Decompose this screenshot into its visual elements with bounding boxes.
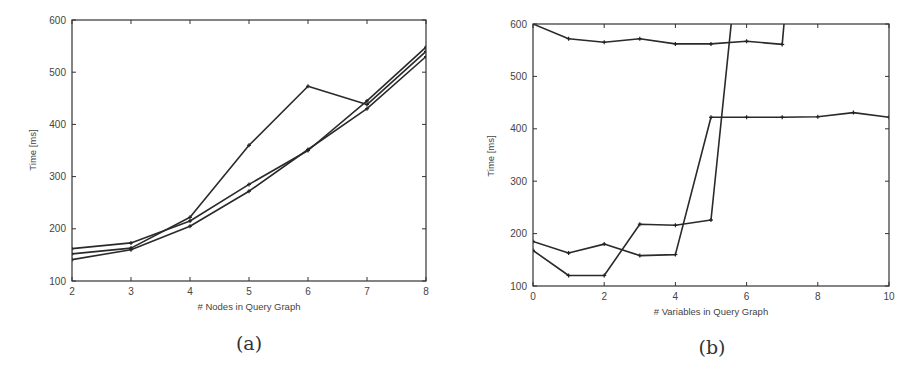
- chart-b-caption: (b): [699, 336, 726, 358]
- chart-b-plot-frame: [533, 24, 889, 286]
- y-tick-label: 600: [510, 19, 527, 30]
- x-tick-label: 6: [305, 286, 311, 297]
- x-tick-label: 5: [246, 286, 252, 297]
- chart-a: 1002003004005006002345678 Time [ms] # No…: [27, 15, 429, 355]
- chart-b-series-3-line: [533, 0, 789, 44]
- x-tick-label: 4: [187, 286, 193, 297]
- x-tick-label: 2: [69, 286, 75, 297]
- x-tick-label: 0: [530, 291, 536, 302]
- chart-a-series-1-line: [72, 51, 426, 254]
- y-tick-label: 500: [510, 71, 527, 82]
- x-tick-label: 10: [883, 291, 895, 302]
- x-tick-label: 7: [364, 286, 370, 297]
- chart-a-ylabel: Time [ms]: [27, 129, 38, 170]
- chart-a-series-3-line: [72, 57, 426, 260]
- chart-b-series-1-line: [533, 113, 889, 256]
- y-tick-label: 100: [510, 281, 527, 292]
- y-tick-label: 400: [49, 119, 66, 130]
- chart-b: 1002003004005006000246810 Time [ms] # Va…: [485, 0, 895, 358]
- chart-b-series: [531, 0, 891, 278]
- y-tick-label: 300: [510, 176, 527, 187]
- y-tick-label: 600: [49, 15, 66, 26]
- y-tick-label: 100: [49, 276, 66, 287]
- x-tick-label: 8: [815, 291, 821, 302]
- chart-a-caption: (a): [236, 332, 262, 354]
- chart-b-xlabel: # Variables in Query Graph: [654, 306, 768, 317]
- chart-a-series: [70, 45, 428, 261]
- chart-a-plot-frame: [72, 20, 426, 281]
- chart-b-ylabel: Time [ms]: [485, 135, 496, 176]
- x-tick-label: 6: [744, 291, 750, 302]
- x-tick-label: 2: [601, 291, 607, 302]
- chart-a-series-2-line: [72, 47, 426, 249]
- x-tick-label: 8: [423, 286, 429, 297]
- figure: 1002003004005006002345678 Time [ms] # No…: [0, 0, 913, 369]
- y-tick-label: 200: [510, 228, 527, 239]
- x-tick-label: 4: [673, 291, 679, 302]
- chart-b-ticks: 1002003004005006000246810: [510, 19, 895, 303]
- chart-a-xlabel: # Nodes in Query Graph: [198, 301, 301, 312]
- y-tick-label: 300: [49, 171, 66, 182]
- y-tick-label: 400: [510, 123, 527, 134]
- y-tick-label: 200: [49, 223, 66, 234]
- y-tick-label: 500: [49, 67, 66, 78]
- x-tick-label: 3: [128, 286, 134, 297]
